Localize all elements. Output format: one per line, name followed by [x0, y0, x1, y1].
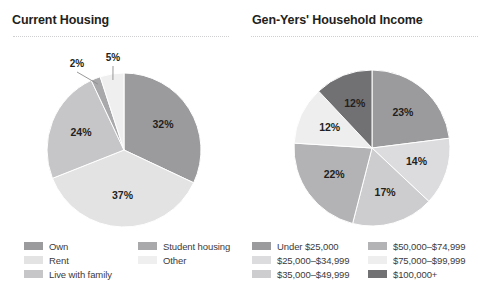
- legend-label-own: Own: [49, 241, 68, 252]
- pie-slice-group-left: [47, 73, 201, 227]
- legend-item-75000-99999[interactable]: $75,000–$99,999: [368, 253, 465, 267]
- legend-swatch-100000-plus: [368, 270, 387, 278]
- legend-swatch-50000-74999: [368, 242, 387, 250]
- title-divider-right: [251, 36, 478, 37]
- legend-swatch-35000-49999: [252, 270, 271, 278]
- pie-slice[interactable]: [294, 91, 372, 148]
- legend-swatch-own: [24, 242, 43, 250]
- pie-slice-label-group-right: 23%14%17%22%12%12%: [319, 97, 428, 197]
- legend-swatch-under-25000: [252, 242, 271, 250]
- pie-slice-label: 24%: [71, 126, 93, 138]
- chart-panel-current-housing: Current Housing 32%37%24%2%5% Own Studen…: [0, 0, 240, 307]
- legend-label-75000-99999: $75,000–$99,999: [393, 255, 465, 266]
- legend-swatch-student-housing: [138, 242, 157, 250]
- legend-label-student-housing: Student housing: [163, 241, 230, 252]
- legend-label-25000-34999: $25,000–$34,999: [277, 255, 349, 266]
- page-title-household-income: Gen-Yers' Household Income: [252, 13, 423, 27]
- pie-slice-label: 12%: [344, 97, 366, 109]
- legend-swatch-rent: [24, 256, 43, 264]
- pie-slice[interactable]: [124, 73, 201, 183]
- pie-slice[interactable]: [353, 148, 429, 226]
- pie-chart-household-income: 23%14%17%22%12%12%: [240, 40, 480, 235]
- legend-current-housing: Own Student housing Rent Other Live with…: [24, 239, 230, 281]
- pie-slice[interactable]: [91, 77, 124, 150]
- legend-label-other: Other: [163, 255, 186, 266]
- pie-slice[interactable]: [319, 70, 372, 148]
- legend-item-25000-34999[interactable]: $25,000–$34,999: [252, 253, 364, 267]
- pie-slice-label: 32%: [153, 118, 175, 130]
- page-title-current-housing: Current Housing: [12, 13, 109, 27]
- legend-label-50000-74999: $50,000–$74,999: [393, 241, 465, 252]
- legend-item-35000-49999[interactable]: $35,000–$49,999: [252, 267, 364, 281]
- pie-slice[interactable]: [47, 80, 124, 178]
- pie-slice[interactable]: [100, 73, 124, 150]
- legend-swatch-25000-34999: [252, 256, 271, 264]
- legend-item-student-housing[interactable]: Student housing: [138, 239, 230, 253]
- pie-slice-label: 23%: [392, 106, 414, 118]
- legend-item-100000-plus[interactable]: $100,000+: [368, 267, 465, 281]
- legend-household-income: Under $25,000 $50,000–$74,999 $25,000–$3…: [252, 239, 465, 281]
- pie-slice-group-right: [294, 70, 450, 226]
- legend-item-50000-74999[interactable]: $50,000–$74,999: [368, 239, 465, 253]
- pie-slice-label: 17%: [375, 186, 397, 198]
- legend-label-100000-plus: $100,000+: [393, 269, 437, 280]
- pie-slice-label: 22%: [324, 168, 346, 180]
- legend-label-live-with-family: Live with family: [49, 269, 112, 280]
- pie-slice[interactable]: [372, 70, 449, 148]
- legend-spacer-left: [138, 267, 230, 281]
- pie-slice-label: 12%: [319, 121, 341, 133]
- pie-leader-line: [77, 72, 98, 84]
- pie-chart-current-housing: 32%37%24%2%5%: [0, 40, 240, 235]
- pie-slice[interactable]: [372, 138, 450, 201]
- pie-leader-line-group-left: [77, 66, 113, 84]
- pie-slice-label: 5%: [106, 52, 121, 63]
- pie-slice[interactable]: [294, 143, 372, 223]
- legend-swatch-live-with-family: [24, 270, 43, 278]
- legend-item-other[interactable]: Other: [138, 253, 230, 267]
- pie-svg-household-income: 23%14%17%22%12%12%: [240, 40, 480, 235]
- legend-item-rent[interactable]: Rent: [24, 253, 132, 267]
- legend-swatch-other: [138, 256, 157, 264]
- legend-label-rent: Rent: [49, 255, 69, 266]
- pie-slice-label: 2%: [70, 58, 85, 69]
- pie-svg-current-housing: 32%37%24%2%5%: [0, 40, 240, 235]
- pie-slice[interactable]: [52, 150, 193, 227]
- legend-item-own[interactable]: Own: [24, 239, 132, 253]
- legend-swatch-75000-99999: [368, 256, 387, 264]
- legend-item-under-25000[interactable]: Under $25,000: [252, 239, 364, 253]
- pie-slice-label: 37%: [112, 189, 134, 201]
- legend-label-under-25000: Under $25,000: [277, 241, 339, 252]
- pie-slice-label: 14%: [406, 155, 428, 167]
- legend-label-35000-49999: $35,000–$49,999: [277, 269, 349, 280]
- legend-item-live-with-family[interactable]: Live with family: [24, 267, 132, 281]
- pie-slice-label-group-left: 32%37%24%2%5%: [70, 52, 174, 201]
- title-divider-left: [13, 36, 229, 37]
- chart-panel-household-income: Gen-Yers' Household Income 23%14%17%22%1…: [240, 0, 480, 307]
